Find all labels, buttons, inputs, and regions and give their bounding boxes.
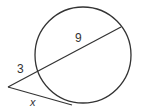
tangent-line (8, 87, 72, 105)
circle (35, 7, 131, 103)
external-segment-label: 3 (17, 62, 24, 76)
tangent-segment-label: x (29, 96, 36, 107)
secant-line (8, 27, 121, 87)
internal-segment-label: 9 (75, 31, 82, 45)
secant-tangent-diagram: 3 9 x (0, 0, 141, 107)
